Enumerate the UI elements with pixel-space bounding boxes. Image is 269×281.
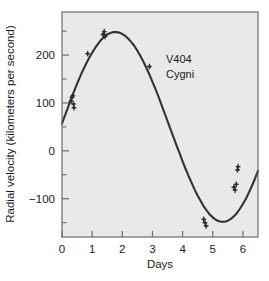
- series-annotation-line2: Cygni: [166, 68, 194, 80]
- x-tick-label: 0: [59, 243, 65, 255]
- y-tick-label: 100: [36, 97, 55, 109]
- data-point-marker: [72, 95, 75, 98]
- data-point-marker: [104, 35, 107, 38]
- x-tick-label: 4: [179, 243, 186, 255]
- data-point-marker: [148, 65, 151, 68]
- x-tick-label: 5: [210, 243, 216, 255]
- data-point-marker: [235, 183, 238, 186]
- x-tick-label: 2: [119, 243, 125, 255]
- y-axis-title: Radial velocity (kilometers per second): [4, 25, 16, 223]
- x-tick-label: 3: [149, 243, 155, 255]
- y-tick-label: 0: [49, 145, 55, 157]
- y-tick-label: −100: [29, 193, 55, 205]
- data-point-marker: [72, 103, 75, 106]
- data-point-marker: [70, 100, 73, 103]
- chart-figure: −1000100200 0123456 Days Radial velocity…: [0, 0, 269, 281]
- data-point-marker: [237, 165, 240, 168]
- data-point-marker: [86, 52, 89, 55]
- radial-velocity-chart: −1000100200 0123456 Days Radial velocity…: [0, 0, 269, 281]
- data-point-marker: [73, 106, 76, 109]
- data-point-marker: [234, 189, 237, 192]
- y-tick-label: 200: [36, 49, 55, 61]
- data-point-marker: [103, 30, 106, 33]
- plot-background: [62, 12, 258, 237]
- x-tick-label: 1: [89, 243, 95, 255]
- x-tick-label: 6: [240, 243, 246, 255]
- data-point-marker: [205, 225, 208, 228]
- x-axis-title: Days: [147, 258, 173, 270]
- series-annotation-line1: V404: [166, 53, 192, 65]
